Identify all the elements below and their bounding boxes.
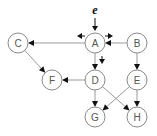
edges-layer bbox=[25, 40, 140, 110]
node-e: E bbox=[127, 70, 147, 90]
arrowhead-icon bbox=[134, 101, 140, 107]
edge-b-e bbox=[134, 53, 140, 70]
edge-d-f bbox=[62, 77, 85, 83]
node-label: D bbox=[91, 75, 98, 86]
node-g: G bbox=[85, 107, 105, 127]
propagation-arrow-right-icon bbox=[108, 33, 113, 39]
node-label: E bbox=[134, 75, 141, 86]
edge-line bbox=[106, 87, 130, 108]
edge-line bbox=[25, 50, 43, 69]
edge-d-g bbox=[92, 90, 98, 107]
edge-b-a bbox=[105, 40, 127, 46]
event-arrow-icon bbox=[92, 26, 98, 31]
arrowhead-icon bbox=[62, 77, 68, 83]
node-f: F bbox=[42, 70, 62, 90]
node-label: A bbox=[92, 38, 99, 49]
node-label: B bbox=[134, 38, 141, 49]
propagation-arrow-left-icon bbox=[77, 33, 82, 39]
node-label: G bbox=[91, 112, 99, 123]
node-label: H bbox=[133, 112, 140, 123]
arrowhead-icon bbox=[92, 101, 98, 107]
arrowhead-icon bbox=[92, 64, 98, 70]
node-d: D bbox=[85, 70, 105, 90]
arrowhead-icon bbox=[28, 40, 34, 46]
event-label: e bbox=[92, 3, 98, 17]
graph-canvas: ABCDEFGH e bbox=[0, 0, 157, 136]
node-a: A bbox=[85, 33, 105, 53]
propagation-arrow-down-icon bbox=[99, 59, 105, 64]
arrowhead-icon bbox=[134, 64, 140, 70]
event-marker: e bbox=[92, 3, 98, 31]
edge-a-d bbox=[92, 53, 98, 70]
edge-line bbox=[103, 87, 127, 108]
node-b: B bbox=[127, 33, 147, 53]
edge-e-h bbox=[134, 90, 140, 107]
edge-a-c bbox=[28, 40, 85, 46]
node-label: F bbox=[49, 75, 55, 86]
node-h: H bbox=[127, 107, 147, 127]
node-label: C bbox=[14, 38, 21, 49]
node-c: C bbox=[8, 33, 28, 53]
arrowhead-icon bbox=[105, 40, 111, 46]
edge-c-f bbox=[25, 50, 45, 72]
